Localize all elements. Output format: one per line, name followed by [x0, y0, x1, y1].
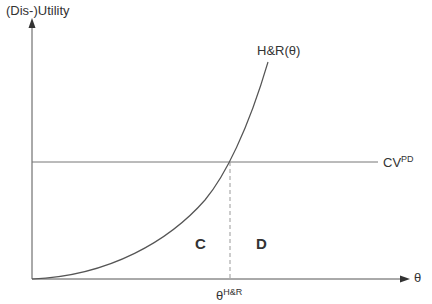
threshold-label: θH&R	[216, 287, 242, 303]
x-axis-arrow-icon	[400, 276, 410, 283]
y-axis-label: (Dis-)Utility	[6, 3, 70, 18]
curve-label: H&R(θ)	[257, 43, 300, 58]
region-d-label: D	[256, 235, 267, 252]
cv-pd-label-sup: PD	[401, 154, 414, 164]
threshold-label-sup: H&R	[223, 287, 242, 297]
y-axis-arrow-icon	[29, 18, 36, 28]
cv-pd-label: CVPD	[383, 154, 414, 170]
cv-pd-label-base: CV	[383, 155, 401, 170]
diagram-canvas	[0, 0, 432, 304]
x-axis-label: θ	[414, 270, 421, 285]
hr-curve	[32, 62, 268, 279]
region-c-label: C	[195, 235, 206, 252]
